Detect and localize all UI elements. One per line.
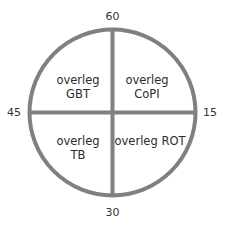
quadrant-top-right-line1: overleg xyxy=(125,73,168,87)
quadrant-bottom-right-line1: overleg ROT xyxy=(115,134,187,148)
quadrant-bottom-left-line2: TB xyxy=(70,148,86,162)
quadrant-top-left-line1: overleg xyxy=(56,73,99,87)
meeting-clock-diagram: 60 15 30 45 overleg GBT overleg CoPI ove… xyxy=(0,0,227,225)
clock-label-bottom: 30 xyxy=(106,206,120,219)
clock-label-right: 15 xyxy=(203,106,217,119)
clock-label-top: 60 xyxy=(106,10,120,23)
quadrant-bottom-left-line1: overleg xyxy=(56,134,99,148)
quadrant-top-left-line2: GBT xyxy=(66,87,91,101)
quadrant-top-right-line2: CoPI xyxy=(134,87,159,101)
clock-label-left: 45 xyxy=(7,106,21,119)
